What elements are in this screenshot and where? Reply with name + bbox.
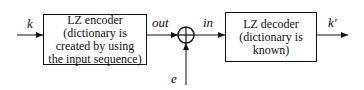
decoder-line-1: LZ decoder [243, 18, 299, 31]
lz-encoder-block: LZ encoder (dictionary is created by usi… [43, 14, 147, 65]
decoder-input-label: in [203, 16, 213, 29]
input-label: k [27, 17, 33, 30]
encoder-line-3: created by using [56, 40, 135, 53]
output-label: k′ [328, 16, 337, 29]
encoder-line-1: LZ encoder [67, 14, 123, 27]
lz-decoder-block: LZ decoder (dictionary is known) [225, 12, 317, 62]
decoder-line-2: (dictionary is [239, 31, 303, 44]
error-label: e [171, 72, 177, 85]
decoder-line-3: known) [253, 44, 290, 57]
encoder-output-label: out [152, 16, 169, 29]
encoder-line-2: (dictionary is [63, 27, 127, 40]
encoder-line-4: the input sequence) [48, 53, 141, 66]
